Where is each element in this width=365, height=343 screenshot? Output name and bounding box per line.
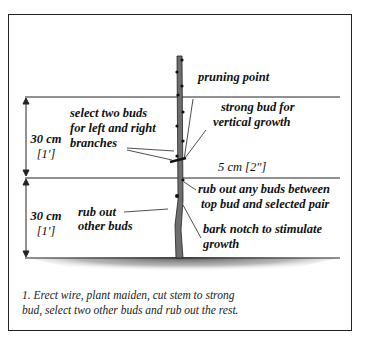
label-bark-notch-1: bark notch to stimulate bbox=[203, 222, 322, 236]
dimension-upper-cm: 30 cm bbox=[24, 132, 68, 147]
label-gap-5cm: 5 cm [2″] bbox=[218, 160, 266, 174]
label-pruning-point: pruning point bbox=[198, 70, 269, 84]
dimension-lower-ft: [1′] bbox=[24, 224, 68, 239]
label-rub-out-between-2: top bud and selected pair bbox=[201, 197, 329, 211]
label-rub-out-other-1: rub out bbox=[78, 205, 116, 219]
label-select-buds-2: for left and right bbox=[70, 121, 156, 135]
label-select-buds-3: branches bbox=[70, 136, 117, 150]
caption-line-1: 1. Erect wire, plant maiden, cut stem to… bbox=[22, 288, 238, 303]
label-strong-bud-2: vertical growth bbox=[213, 115, 290, 129]
dimension-lower-cm: 30 cm bbox=[24, 209, 68, 224]
caption-line-2: bud, select two other buds and rub out t… bbox=[22, 303, 238, 318]
dimension-upper-ft: [1′] bbox=[24, 147, 68, 162]
label-select-buds-1: select two buds bbox=[70, 106, 147, 120]
figure-caption: 1. Erect wire, plant maiden, cut stem to… bbox=[22, 288, 238, 318]
label-rub-out-other-2: other buds bbox=[78, 219, 133, 233]
label-strong-bud-1: strong bud for bbox=[221, 100, 295, 114]
label-rub-out-between-1: rub out any buds between bbox=[198, 182, 330, 196]
soil-shading bbox=[30, 257, 340, 281]
label-bark-notch-2: growth bbox=[203, 237, 239, 251]
